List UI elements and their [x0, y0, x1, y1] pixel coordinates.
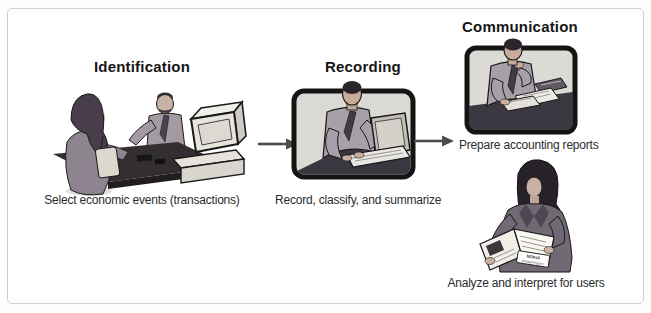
identification-caption: Select economic events (transactions) [25, 193, 259, 207]
identification-title: Identification [42, 58, 242, 75]
recording-title: Recording [288, 58, 438, 75]
communication-reports-illustration [463, 38, 593, 138]
communication-analyze-illustration: NOKIA Annual Report [470, 158, 605, 278]
recording-caption: Record, classify, and summarize [275, 193, 435, 207]
analyze-caption: Analyze and interpret for users [438, 276, 614, 290]
identification-illustration [53, 84, 248, 196]
clerk-figure [129, 93, 185, 149]
flow-arrow-icon [412, 133, 456, 149]
reports-caption: Prepare accounting reports [459, 138, 639, 152]
recording-illustration [289, 80, 439, 183]
communication-title: Communication [445, 18, 595, 35]
figure-canvas: Identification [0, 0, 651, 313]
